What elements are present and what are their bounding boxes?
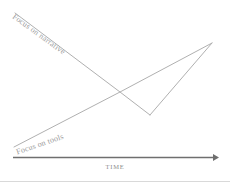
x-axis-title: TIME [0, 163, 230, 170]
time-axis-arrow-icon [213, 154, 219, 161]
series-line-narrative-recovery [150, 43, 212, 115]
series-line-focus-on-tools [14, 43, 212, 147]
chart-canvas: Focus on narrative Focus on tools TIME [0, 0, 230, 188]
